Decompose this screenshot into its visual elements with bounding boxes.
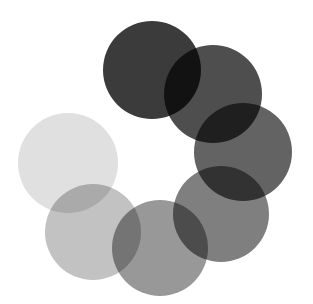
spinner-dot-left <box>18 113 118 213</box>
seven-circle-ring-spinner-icon <box>0 0 313 304</box>
spinner-graphic-canvas <box>0 0 313 304</box>
